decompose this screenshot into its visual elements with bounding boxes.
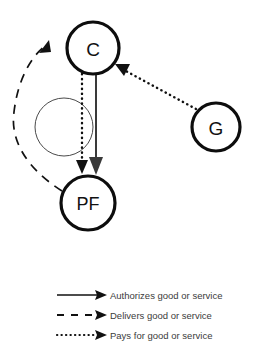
- legend-label-pays: Pays for good or service: [110, 330, 212, 341]
- background-circle: [35, 98, 93, 156]
- arrowhead-c-to-pf-authorizes: [89, 157, 103, 175]
- edge-g-to-c-pays: [124, 70, 196, 109]
- node-pf[interactable]: PF: [61, 176, 115, 230]
- legend-item-authorizes: Authorizes good or service: [57, 290, 222, 301]
- edge-pf-to-c-delivers: [13, 46, 62, 191]
- diagram-canvas: C PF G Authorizes good or service Delive…: [0, 0, 258, 358]
- legend-label-delivers: Delivers good or service: [110, 310, 212, 321]
- legend-label-authorizes: Authorizes good or service: [110, 290, 222, 301]
- legend-arrowhead-dashed: [95, 310, 107, 320]
- legend-item-pays: Pays for good or service: [57, 330, 212, 341]
- arrowhead-g-to-c-pays: [115, 64, 130, 76]
- arrowhead-c-to-pf-pays: [76, 160, 88, 174]
- node-pf-label: PF: [76, 194, 99, 214]
- node-g[interactable]: G: [192, 103, 240, 151]
- node-c[interactable]: C: [67, 22, 119, 74]
- arrowhead-pf-to-c-delivers: [39, 40, 51, 53]
- node-g-label: G: [209, 118, 224, 139]
- node-c-label: C: [86, 39, 100, 60]
- legend: Authorizes good or service Delivers good…: [57, 290, 222, 341]
- legend-arrowhead-dotted: [95, 330, 107, 340]
- flow-diagram: C PF G Authorizes good or service Delive…: [0, 0, 258, 358]
- legend-item-delivers: Delivers good or service: [57, 310, 212, 321]
